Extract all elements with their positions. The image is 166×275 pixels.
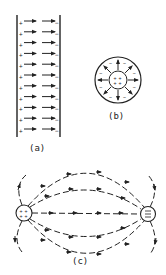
panel-a-parallel-plates: +−+−+−+−+−+−+−+−+−+−+− (17, 15, 60, 137)
svg-text:−: − (55, 19, 59, 26)
svg-text:+: + (19, 73, 23, 80)
field-lines (15, 172, 156, 254)
svg-text:−: − (55, 116, 59, 123)
panel-c-dipole: ++++ (15, 172, 156, 254)
svg-text:−: − (109, 60, 112, 66)
svg-text:+: + (19, 116, 23, 123)
svg-text:+: + (19, 95, 23, 102)
svg-text:−: − (99, 70, 102, 76)
svg-text:+: + (20, 213, 23, 219)
panel-b-label: (b) (108, 111, 124, 121)
svg-text:+: + (114, 80, 117, 86)
svg-text:+: + (119, 80, 122, 86)
charge-signs: ++++ (20, 208, 152, 219)
panel-b-concentric-spheres: −−−−−−−−++++ (95, 57, 141, 103)
panel-c-label: (c) (72, 256, 88, 266)
svg-text:−: − (55, 95, 59, 102)
svg-text:+: + (19, 19, 23, 26)
svg-text:+: + (25, 213, 28, 219)
svg-text:+: + (19, 84, 23, 91)
svg-text:−: − (55, 51, 59, 58)
svg-text:−: − (55, 41, 59, 48)
svg-text:−: − (55, 105, 59, 112)
field-arrows: +−+−+−+−+−+−+−+−+−+−+− (19, 19, 59, 134)
svg-text:+: + (19, 105, 23, 112)
svg-text:−: − (55, 73, 59, 80)
svg-text:−: − (123, 94, 126, 100)
svg-text:+: + (19, 41, 23, 48)
svg-text:−: − (55, 127, 59, 134)
svg-text:+: + (19, 30, 23, 37)
svg-text:−: − (123, 60, 126, 66)
svg-text:+: + (19, 51, 23, 58)
svg-text:+: + (19, 62, 23, 69)
svg-text:+: + (19, 127, 23, 134)
svg-text:−: − (133, 70, 136, 76)
svg-text:−: − (133, 84, 136, 90)
svg-text:−: − (55, 62, 59, 69)
svg-text:−: − (55, 84, 59, 91)
svg-text:−: − (55, 30, 59, 37)
figure-canvas: +−+−+−+−+−+−+−+−+−+−+− −−−−−−−−++++ ++++ (0, 0, 166, 275)
svg-text:−: − (99, 84, 102, 90)
svg-text:−: − (109, 94, 112, 100)
panel-a-label: (a) (29, 143, 45, 153)
